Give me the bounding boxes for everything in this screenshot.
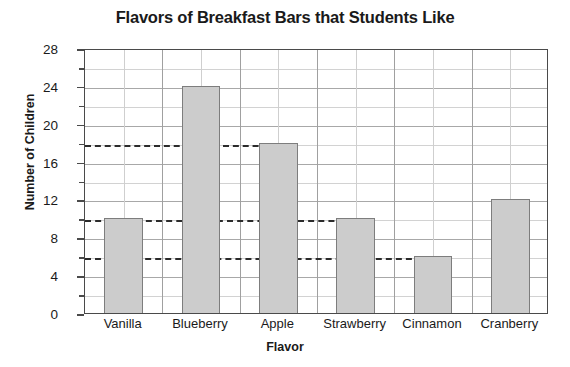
bar-strawberry: [336, 218, 375, 313]
y-tick-major: [77, 49, 84, 51]
bar-cranberry: [491, 199, 530, 313]
y-tick-label: 28: [43, 42, 58, 57]
y-tick-label: 20: [43, 117, 58, 132]
y-tick-major: [77, 314, 84, 316]
x-axis-title: Flavor: [0, 340, 570, 354]
y-tick-major: [77, 87, 84, 89]
y-tick-label: 12: [43, 193, 58, 208]
gridline-horizontal: [85, 239, 547, 240]
bar-chart: Flavors of Breakfast Bars that Students …: [0, 0, 570, 367]
gridline-vertical: [472, 50, 473, 313]
bar-blueberry: [182, 86, 221, 313]
gridline-horizontal: [85, 164, 547, 165]
x-tick-label-apple: Apple: [261, 316, 294, 331]
y-tick-major: [77, 200, 84, 202]
y-tick-label: 4: [50, 269, 58, 284]
x-tick-label-cranberry: Cranberry: [480, 316, 538, 331]
x-axis-tick-labels: VanillaBlueberryAppleStrawberryCinnamonC…: [84, 316, 548, 338]
plot-area: [84, 49, 548, 314]
x-tick-label-strawberry: Strawberry: [323, 316, 386, 331]
y-axis-tick-labels: 0481216202428: [0, 49, 66, 314]
bar-vanilla: [104, 218, 143, 313]
y-tick-label: 0: [50, 307, 58, 322]
gridline-vertical: [240, 50, 241, 313]
y-tick-major: [77, 238, 84, 240]
y-tick-major: [77, 276, 84, 278]
gridline-horizontal: [85, 88, 547, 89]
x-tick-label-blueberry: Blueberry: [172, 316, 228, 331]
y-tick-major: [77, 163, 84, 165]
gridline-vertical: [394, 50, 395, 313]
chart-title: Flavors of Breakfast Bars that Students …: [0, 8, 570, 27]
gridline-horizontal: [85, 277, 547, 278]
y-tick-label: 24: [43, 79, 58, 94]
bar-apple: [259, 143, 298, 313]
bar-cinnamon: [414, 256, 453, 313]
gridline-horizontal: [85, 69, 547, 70]
x-tick-label-cinnamon: Cinnamon: [402, 316, 461, 331]
y-tick-major: [77, 125, 84, 127]
x-tick-label-vanilla: Vanilla: [104, 316, 142, 331]
gridline-horizontal: [85, 183, 547, 184]
gridline-vertical: [317, 50, 318, 313]
gridline-horizontal: [85, 201, 547, 202]
gridline-horizontal: [85, 107, 547, 108]
y-tick-label: 8: [50, 231, 58, 246]
gridline-horizontal: [85, 296, 547, 297]
gridline-horizontal: [85, 126, 547, 127]
y-tick-label: 16: [43, 155, 58, 170]
y-axis-ticks: [70, 49, 84, 314]
gridline-vertical: [162, 50, 163, 313]
